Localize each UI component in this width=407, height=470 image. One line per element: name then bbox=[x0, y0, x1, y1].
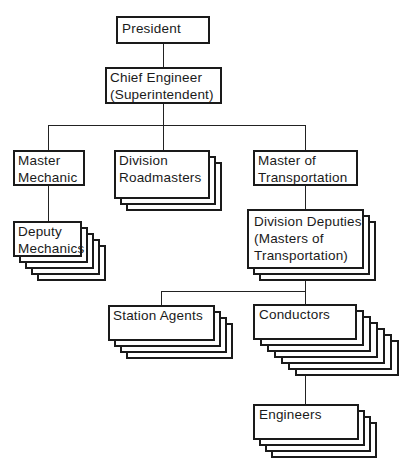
node-president: President bbox=[116, 16, 210, 44]
edge-master-transportation-deputies bbox=[305, 186, 306, 209]
edge-to-master-mechanic bbox=[48, 125, 49, 150]
edge-level2-bar bbox=[48, 125, 306, 126]
node-label: Station Agents bbox=[113, 307, 210, 324]
node-label: Engineers bbox=[259, 406, 353, 423]
node-label: (Masters of bbox=[254, 230, 357, 247]
node-label: Roadmasters bbox=[119, 169, 205, 186]
node-master-mechanic: Master Mechanic bbox=[13, 150, 85, 186]
node-conductors: Conductors bbox=[253, 304, 357, 340]
node-division-deputies: Division Deputies (Masters of Transporta… bbox=[247, 209, 364, 269]
node-chief-engineer: Chief Engineer (Superintendent) bbox=[105, 67, 222, 104]
node-label: Mechanic bbox=[18, 169, 80, 186]
node-label: (Superintendent) bbox=[110, 86, 217, 103]
node-deputy-mechanics: Deputy Mechanics bbox=[13, 221, 82, 257]
node-station-agents: Station Agents bbox=[108, 305, 215, 341]
node-engineers: Engineers bbox=[253, 404, 359, 440]
edge-deputies-down bbox=[305, 280, 306, 304]
node-label: Mechanics bbox=[18, 240, 77, 257]
edge-to-station-agents bbox=[161, 291, 162, 305]
node-master-of-transportation: Master of Transportation bbox=[253, 150, 358, 186]
node-label: Transportation) bbox=[254, 247, 357, 264]
edge-to-master-transportation bbox=[305, 125, 306, 150]
node-division-roadmasters: Division Roadmasters bbox=[114, 150, 210, 199]
node-label: Deputy bbox=[18, 223, 77, 240]
node-label: Division bbox=[119, 152, 205, 169]
edge-level4-bar bbox=[161, 291, 306, 292]
node-label: Transportation bbox=[258, 169, 353, 186]
node-label: Master of bbox=[258, 152, 353, 169]
edge-chief-down bbox=[163, 103, 164, 125]
edge-to-roadmasters bbox=[163, 125, 164, 150]
node-label: Chief Engineer bbox=[110, 69, 217, 86]
edge-president-chief bbox=[163, 43, 164, 67]
edge-master-mechanic-deputies bbox=[48, 186, 49, 221]
node-label: Conductors bbox=[259, 306, 351, 323]
node-label: President bbox=[122, 20, 204, 37]
edge-conductors-engineers bbox=[305, 375, 306, 404]
node-label: Master bbox=[18, 152, 80, 169]
node-label: Division Deputies bbox=[254, 213, 357, 230]
